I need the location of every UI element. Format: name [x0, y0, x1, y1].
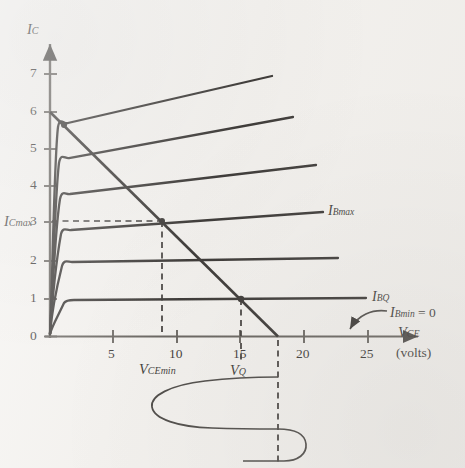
curve-5	[50, 165, 316, 334]
x-axis-title: VCE	[398, 325, 420, 340]
curve-7	[50, 76, 272, 334]
y-tick-7: 7	[30, 66, 37, 80]
x-axis-units: (volts)	[396, 346, 431, 360]
y-tick-6: 6	[30, 104, 37, 118]
vq-label: VQ	[230, 363, 246, 378]
characteristic-curve-group	[50, 76, 366, 334]
y-tick-5: 5	[30, 141, 37, 155]
ibmin-pointer-arrow	[350, 311, 387, 329]
ibq-curve-label: IBQ	[372, 290, 389, 304]
x-tick-10: 10	[169, 347, 183, 361]
y-tick-2: 2	[30, 253, 37, 267]
cutoff-point-dot	[61, 122, 67, 128]
y-tick-0: 0	[30, 329, 37, 343]
x-axis	[45, 330, 418, 343]
ibmax-curve-label: IBmax	[328, 204, 354, 218]
x-tick-5: 5	[108, 347, 115, 361]
ibmin-curve-label: IBmin = 0	[390, 306, 436, 320]
x-tick-15: 15	[233, 347, 247, 361]
x-tick-20: 20	[296, 347, 310, 361]
x-tick-25: 25	[360, 347, 374, 361]
vcemin-label: VCEmin	[139, 362, 176, 377]
y-tick-1: 1	[30, 291, 37, 305]
dc-load-line	[50, 112, 278, 337]
curve-3	[50, 258, 338, 334]
figure-canvas: 7 6 5 4 3 2 1 0 5 10 15 20 25 IC VCE (vo…	[0, 0, 465, 468]
characteristic-curves-svg	[0, 0, 465, 468]
output-voltage-waveform	[152, 377, 306, 461]
y-tick-4: 4	[30, 178, 37, 192]
curve-4-IBmax	[50, 212, 323, 334]
y-axis-title: IC	[27, 22, 39, 37]
curve-2-IBQ	[50, 298, 366, 334]
icmax-label: ICmax	[4, 214, 32, 229]
